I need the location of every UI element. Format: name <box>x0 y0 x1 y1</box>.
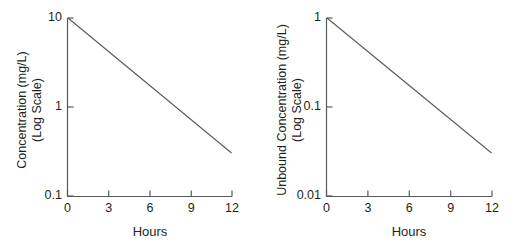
y-axis-title-line2: (Log Scale) <box>30 30 45 190</box>
unbound-concentration-decay-line <box>327 18 492 153</box>
x-tick-label-0: 0 <box>312 202 342 215</box>
x-tick-label-6: 6 <box>394 202 424 215</box>
x-tick-label-9: 9 <box>176 202 206 215</box>
chart-panel-left: 10 1 0.1 0 3 6 9 12 Hours Concentration … <box>0 0 258 250</box>
x-tick-label-12: 12 <box>217 202 247 215</box>
y-axis-title-line1: Concentration (mg/L) <box>15 51 29 168</box>
x-axis-title: Hours <box>100 224 200 239</box>
y-axis-title: Concentration (mg/L) (Log Scale) <box>15 30 45 190</box>
x-tick-label-12: 12 <box>477 202 507 215</box>
x-tick-label-3: 3 <box>94 202 124 215</box>
y-axis-title-line1: Unbound Concentration (mg/L) <box>275 24 289 196</box>
x-tick-label-3: 3 <box>353 202 383 215</box>
pharmacokinetics-figure: 10 1 0.1 0 3 6 9 12 Hours Concentration … <box>0 0 516 250</box>
concentration-decay-line <box>68 18 232 153</box>
y-axis-title-line2: (Log Scale) <box>290 10 305 210</box>
x-tick-label-6: 6 <box>135 202 165 215</box>
chart-panel-right: 1 0.1 0.01 0 3 6 9 12 Hours Unbound Conc… <box>258 0 516 250</box>
y-axis-title: Unbound Concentration (mg/L) (Log Scale) <box>275 10 305 210</box>
x-axis-title: Hours <box>359 224 459 239</box>
x-tick-label-9: 9 <box>436 202 466 215</box>
x-tick-label-0: 0 <box>53 202 83 215</box>
y-tick-label-bottom: 0.1 <box>26 189 62 202</box>
y-tick-label-top: 10 <box>30 11 62 24</box>
